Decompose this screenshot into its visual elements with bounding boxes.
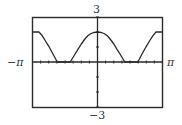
plot-area — [0, 0, 182, 125]
y-min-label: −3 — [89, 110, 105, 121]
y-max-label: 3 — [93, 4, 100, 15]
x-max-label: π — [167, 57, 174, 68]
x-min-label: −π — [7, 57, 23, 68]
